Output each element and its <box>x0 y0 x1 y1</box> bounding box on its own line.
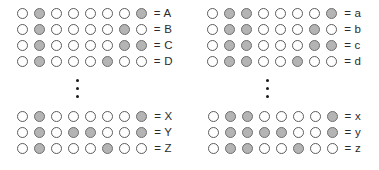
empty-circle <box>17 56 28 67</box>
empty-circle <box>102 8 113 19</box>
row-label: = Z <box>154 143 172 154</box>
empty-circle <box>293 127 304 138</box>
empty-circle <box>276 143 287 154</box>
filled-circle <box>119 40 130 51</box>
filled-circle <box>241 8 252 19</box>
row-label: = b <box>344 24 361 35</box>
row-label: = c <box>344 40 360 51</box>
filled-circle <box>327 111 338 122</box>
empty-circle <box>85 56 96 67</box>
empty-circle <box>207 40 218 51</box>
row-label: = d <box>344 56 361 67</box>
filled-circle <box>293 143 304 154</box>
code-row: = D <box>17 54 173 68</box>
empty-circle <box>136 143 147 154</box>
row-label: = X <box>154 111 172 122</box>
filled-circle <box>242 111 253 122</box>
empty-circle <box>259 111 270 122</box>
filled-circle <box>259 127 270 138</box>
filled-circle <box>292 56 303 67</box>
filled-circle <box>34 40 45 51</box>
empty-circle <box>51 24 62 35</box>
empty-circle <box>326 56 337 67</box>
filled-circle <box>276 127 287 138</box>
row-label: = x <box>345 111 361 122</box>
empty-circle <box>119 143 130 154</box>
empty-circle <box>17 143 28 154</box>
empty-circle <box>258 56 269 67</box>
empty-circle <box>292 40 303 51</box>
filled-circle <box>85 127 96 138</box>
ellipsis-dot <box>266 87 269 90</box>
filled-circle <box>225 143 236 154</box>
ellipsis-dot <box>266 79 269 82</box>
row-label: = A <box>154 8 172 19</box>
filled-circle <box>68 127 79 138</box>
code-row: = c <box>207 38 361 52</box>
filled-circle <box>224 8 235 19</box>
row-label: = D <box>154 56 173 67</box>
empty-circle <box>207 56 218 67</box>
empty-circle <box>17 40 28 51</box>
filled-circle <box>326 40 337 51</box>
code-row: = a <box>207 6 361 20</box>
empty-circle <box>207 8 218 19</box>
empty-circle <box>275 56 286 67</box>
empty-circle <box>85 111 96 122</box>
empty-circle <box>68 111 79 122</box>
empty-circle <box>275 24 286 35</box>
row-label: = z <box>345 143 361 154</box>
filled-circle <box>241 56 252 67</box>
empty-circle <box>136 56 147 67</box>
filled-circle <box>225 127 236 138</box>
empty-circle <box>102 40 113 51</box>
empty-circle <box>102 24 113 35</box>
filled-circle <box>309 24 320 35</box>
empty-circle <box>119 127 130 138</box>
empty-circle <box>292 8 303 19</box>
filled-circle <box>34 127 45 138</box>
filled-circle <box>326 8 337 19</box>
filled-circle <box>136 40 147 51</box>
filled-circle <box>34 56 45 67</box>
uppercase-column: = A= B= C= D = X= Y= Z <box>0 0 190 170</box>
filled-circle <box>34 143 45 154</box>
empty-circle <box>309 56 320 67</box>
row-label: = Y <box>154 127 172 138</box>
row-label: = a <box>344 8 361 19</box>
empty-circle <box>259 143 270 154</box>
vertical-ellipsis-left <box>76 69 113 107</box>
code-pattern-figure: = A= B= C= D = X= Y= Z = a= b= c= d = x=… <box>0 0 379 170</box>
filled-circle <box>34 24 45 35</box>
empty-circle <box>85 40 96 51</box>
empty-circle <box>258 24 269 35</box>
filled-circle <box>136 127 147 138</box>
empty-circle <box>68 40 79 51</box>
empty-circle <box>293 111 304 122</box>
ellipsis-dot <box>76 87 79 90</box>
code-row: = A <box>17 6 173 20</box>
code-row: = Z <box>17 141 172 155</box>
empty-circle <box>119 8 130 19</box>
filled-circle <box>309 40 320 51</box>
empty-circle <box>68 56 79 67</box>
empty-circle <box>275 40 286 51</box>
empty-circle <box>207 24 218 35</box>
empty-circle <box>51 40 62 51</box>
filled-circle <box>119 24 130 35</box>
filled-circle <box>224 24 235 35</box>
empty-circle <box>51 111 62 122</box>
code-row: = y <box>208 125 361 139</box>
empty-circle <box>85 24 96 35</box>
empty-circle <box>310 143 321 154</box>
empty-circle <box>51 127 62 138</box>
empty-circle <box>51 143 62 154</box>
empty-circle <box>68 143 79 154</box>
empty-circle <box>292 24 303 35</box>
filled-circle <box>241 40 252 51</box>
filled-circle <box>136 8 147 19</box>
empty-circle <box>327 143 338 154</box>
filled-circle <box>242 127 253 138</box>
code-row: = b <box>207 22 361 36</box>
filled-circle <box>102 143 113 154</box>
